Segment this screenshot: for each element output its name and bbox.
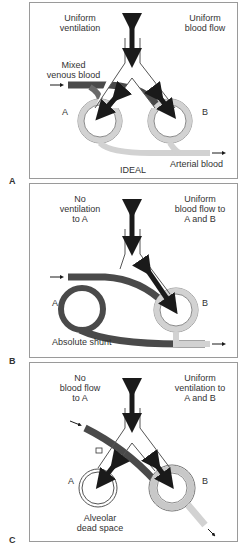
label-alveolus-b: B — [202, 107, 208, 117]
label-mixed-venous-blood: Mixed venous blood — [36, 60, 111, 80]
label-ideal: IDEAL — [120, 165, 146, 175]
label-alveolus-a: A — [68, 476, 74, 486]
label-uniform-blood-flow-to-a-and-b: Uniform blood flow to A and B — [165, 194, 235, 224]
label-uniform-ventilation: Uniform ventilation — [50, 13, 110, 33]
label-alveolus-a: A — [62, 107, 68, 117]
label-uniform-blood-flow: Uniform blood flow — [175, 13, 235, 33]
label-alveolar-dead-space: Alveolar dead space — [70, 513, 130, 533]
panel-letter-a: A — [9, 176, 16, 186]
label-absolute-shunt: Absolute shunt — [52, 337, 112, 347]
panel-b-shunt: No ventilation to A Uniform blood flow t… — [29, 183, 238, 358]
label-uniform-ventilation-to-a-and-b: Uniform ventilation to A and B — [165, 373, 235, 403]
panel-c-dead-space: No blood flow to A Uniform ventilation t… — [29, 362, 238, 542]
label-no-ventilation-to-a: No ventilation to A — [50, 194, 110, 224]
label-alveolus-a: A — [52, 298, 58, 308]
label-no-blood-flow-to-a: No blood flow to A — [50, 373, 110, 403]
panel-a-ideal: Uniform ventilation Uniform blood flow M… — [29, 2, 238, 179]
panel-letter-b: B — [9, 356, 16, 366]
label-alveolus-b: B — [202, 298, 208, 308]
label-arterial-blood: Arterial blood — [170, 159, 223, 169]
label-alveolus-b: B — [202, 476, 208, 486]
panel-letter-c: C — [9, 535, 16, 545]
